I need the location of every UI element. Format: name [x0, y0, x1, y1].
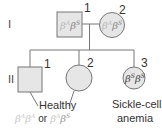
- healthy-label: Healthy: [39, 99, 77, 111]
- individual-number: 1: [84, 1, 91, 15]
- individual-II-2: 2: [66, 56, 94, 91]
- individual-II-3: βSβS 3: [123, 56, 148, 89]
- affected-label-line1: Sickle-cell: [112, 98, 162, 110]
- individual-number: 2: [119, 3, 126, 17]
- generation-label-I: I: [8, 18, 11, 30]
- individual-I-2: βAβS 2: [100, 3, 127, 38]
- individual-I-1: βAβS 1: [57, 1, 91, 37]
- individual-number: 1: [44, 57, 51, 71]
- individual-number: 3: [141, 56, 148, 70]
- pedigree-chart: I II βAβS 1 βAβS 2 1 2 βSβS 3: [0, 0, 162, 128]
- healthy-genotypes: βAβAorβAβS: [14, 112, 70, 124]
- individual-II-1: 1: [18, 57, 51, 92]
- pointer-line: [30, 92, 38, 106]
- affected-label-line2: anemia: [117, 112, 154, 124]
- generation-label-II: II: [8, 73, 14, 85]
- individual-number: 2: [87, 56, 94, 70]
